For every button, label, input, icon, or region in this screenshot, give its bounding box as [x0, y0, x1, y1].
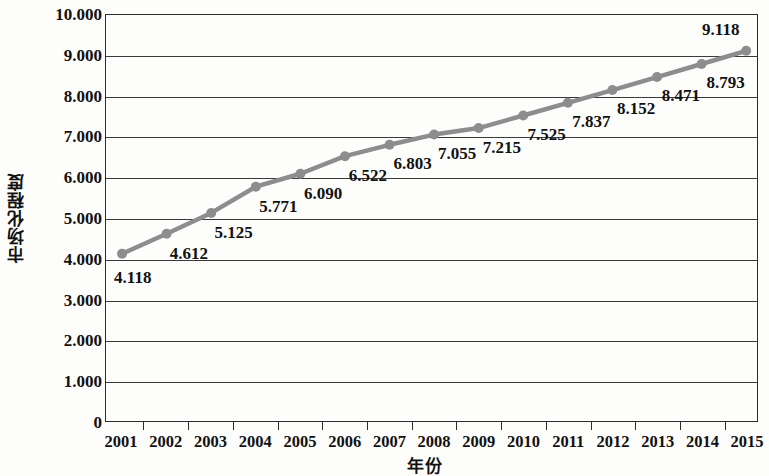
data-point-marker	[162, 229, 172, 239]
data-point-marker	[295, 169, 305, 179]
x-tick-mark	[322, 422, 323, 430]
x-tick-label: 2004	[239, 432, 272, 452]
data-point-marker	[697, 59, 707, 69]
data-point-marker	[518, 111, 528, 121]
data-point-marker	[563, 98, 573, 108]
x-axis-tick-marks	[105, 422, 758, 431]
plot-area: 4.1184.6125.1255.7716.0906.5226.8037.055…	[105, 14, 758, 422]
x-tick-label: 2012	[596, 432, 629, 452]
x-tick-mark	[680, 422, 681, 430]
y-tick-label: 9.000	[20, 46, 102, 63]
x-tick-label: 2014	[686, 432, 719, 452]
x-tick-mark	[501, 422, 502, 430]
data-point-marker	[429, 130, 439, 140]
x-tick-label: 2007	[373, 432, 406, 452]
x-tick-label: 2005	[283, 432, 316, 452]
data-point-label: 8.152	[617, 100, 655, 117]
x-tick-label: 2010	[507, 432, 540, 452]
y-tick-label: 1.000	[20, 373, 102, 390]
series-line	[106, 15, 757, 421]
x-tick-label: 2008	[418, 432, 451, 452]
y-tick-label: 2.000	[20, 332, 102, 349]
x-tick-label: 2001	[105, 432, 138, 452]
data-point-label: 7.837	[572, 113, 610, 130]
y-axis-tick-labels: 01.0002.0003.0004.0005.0006.0007.0008.00…	[20, 0, 102, 476]
data-point-marker	[385, 140, 395, 150]
data-point-label: 6.803	[393, 155, 431, 172]
data-point-label: 9.118	[702, 21, 739, 38]
x-tick-mark	[143, 422, 144, 430]
data-point-marker	[741, 46, 751, 56]
data-point-marker	[607, 85, 617, 95]
data-point-label: 8.471	[662, 87, 700, 104]
y-tick-label: 4.000	[20, 250, 102, 267]
data-point-label: 4.612	[170, 245, 208, 262]
data-point-label: 7.055	[438, 145, 476, 162]
y-tick-label: 3.000	[20, 291, 102, 308]
data-point-marker	[117, 249, 127, 259]
data-point-label: 5.771	[259, 198, 297, 215]
x-tick-mark	[546, 422, 547, 430]
x-tick-label: 2003	[194, 432, 227, 452]
x-tick-label: 2011	[552, 432, 584, 452]
x-tick-label: 2009	[462, 432, 495, 452]
data-point-label: 8.793	[706, 74, 744, 91]
x-tick-mark	[278, 422, 279, 430]
x-tick-label: 2006	[328, 432, 361, 452]
y-tick-label: 8.000	[20, 87, 102, 104]
x-tick-mark	[591, 422, 592, 430]
data-point-marker	[251, 182, 261, 192]
data-point-marker	[652, 72, 662, 82]
data-point-label: 7.525	[528, 126, 566, 143]
x-axis-title: 年份	[0, 452, 769, 476]
data-point-marker	[340, 151, 350, 161]
y-tick-label: 0	[20, 414, 102, 431]
x-tick-mark	[412, 422, 413, 430]
x-tick-mark	[725, 422, 726, 430]
x-axis-title-text: 年份	[407, 456, 443, 476]
x-axis-tick-labels: 2001200220032004200520062007200820092010…	[105, 432, 758, 454]
x-tick-mark	[456, 422, 457, 430]
y-tick-label: 5.000	[20, 210, 102, 227]
x-tick-mark	[188, 422, 189, 430]
x-tick-mark	[233, 422, 234, 430]
data-point-label: 5.125	[215, 224, 253, 241]
data-point-marker	[206, 208, 216, 218]
data-point-label: 6.522	[349, 167, 387, 184]
data-point-marker	[474, 123, 484, 133]
line-chart: 市场化程度 01.0002.0003.0004.0005.0006.0007.0…	[0, 0, 769, 476]
data-point-label: 7.215	[483, 139, 521, 156]
y-tick-label: 10.000	[20, 6, 102, 23]
data-point-label: 4.118	[114, 269, 151, 286]
x-tick-mark	[635, 422, 636, 430]
y-tick-label: 6.000	[20, 169, 102, 186]
data-point-label: 6.090	[304, 185, 342, 202]
x-tick-label: 2013	[641, 432, 674, 452]
x-tick-label: 2015	[731, 432, 764, 452]
x-tick-label: 2002	[149, 432, 182, 452]
y-tick-label: 7.000	[20, 128, 102, 145]
x-tick-mark	[367, 422, 368, 430]
